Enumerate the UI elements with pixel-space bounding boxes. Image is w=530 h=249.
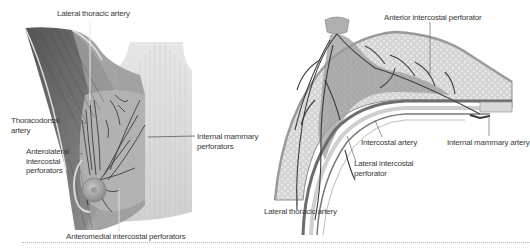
label-lateral-intercostal-perforator: Lateral intercostal perforator [354, 159, 413, 178]
label-internal-mammary-perforators: Internal mammary perforators [197, 132, 258, 151]
breast-cross-section-illustration: Anterior intercostal perforator Intercos… [265, 0, 530, 240]
label-anterolateral-intercostal-perforators: Anterolateral intercostal perforators [26, 147, 69, 176]
label-intercostal-artery: Intercostal artery [361, 138, 417, 148]
label-anteromedial-intercostal-perforators: Anteromedial intercostal perforators [66, 232, 186, 242]
label-line: perforators [197, 142, 258, 152]
anterior-breast-illustration: Lateral thoracic artery Thoracodorsal ar… [0, 0, 265, 240]
nipple [325, 17, 349, 34]
bottom-dotted-divider [22, 242, 530, 243]
label-internal-mammary-artery: Internal mammary artery [447, 138, 530, 148]
label-thoracodorsal-artery: Thoracodorsal artery [11, 116, 60, 135]
nipple [91, 187, 97, 193]
label-line: Anterolateral [26, 147, 69, 157]
label-lateral-thoracic-artery: Lateral thoracic artery [57, 9, 130, 19]
label-line: Thoracodorsal [11, 116, 60, 126]
label-line: perforators [26, 166, 69, 176]
label-line: perforator [354, 169, 413, 179]
internal-mammary-vessel [470, 115, 490, 118]
label-line: Internal mammary [197, 132, 258, 142]
label-line: Lateral intercostal [354, 159, 413, 169]
label-anterior-intercostal-perforator: Anterior intercostal perforator [384, 13, 481, 23]
label-lateral-thoracic-artery-section: Lateral thoracic artery [264, 207, 337, 217]
sternum-section [480, 102, 512, 112]
label-line: artery [11, 126, 60, 136]
label-line: intercostal [26, 157, 69, 167]
cross-section-drawing [265, 0, 530, 240]
